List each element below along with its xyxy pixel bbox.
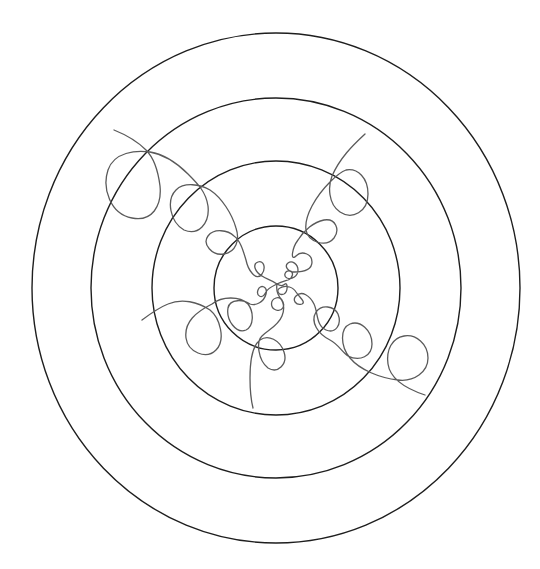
rings-group [32, 33, 520, 543]
arm-upper-left [106, 130, 277, 284]
arm-lower-right [277, 284, 428, 395]
arm-upper-right [277, 134, 368, 284]
ring-2 [91, 98, 461, 478]
concentric-rings-diagram [0, 0, 540, 569]
outer-ring [32, 33, 520, 543]
diagram-canvas [0, 0, 540, 569]
arm-down [250, 284, 285, 408]
ring-3 [152, 161, 400, 415]
